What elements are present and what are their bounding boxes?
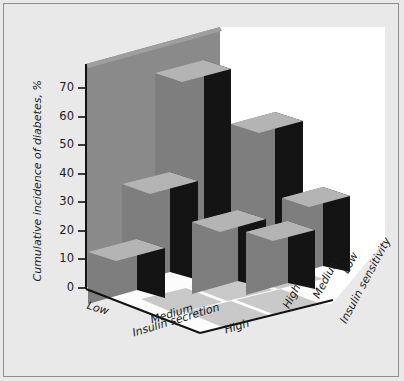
y-axis-title: Cumulative incidence of diabetes, % xyxy=(31,82,44,282)
three-d-bar-chart xyxy=(0,0,404,381)
y-tick-label-40: 40 xyxy=(52,168,74,180)
y-tick-label-0: 0 xyxy=(52,282,74,294)
y-tick-label-50: 50 xyxy=(52,139,74,151)
y-axis-ticks xyxy=(78,88,86,288)
chart-figure: 0 10 20 30 40 50 60 70 Cumulative incide… xyxy=(0,0,404,381)
bar-high-secretion-medium-sensitivity xyxy=(246,221,315,295)
y-tick-label-60: 60 xyxy=(52,111,74,123)
y-tick-label-10: 10 xyxy=(52,253,74,265)
y-tick-label-30: 30 xyxy=(52,196,74,208)
y-tick-label-20: 20 xyxy=(52,225,74,237)
y-tick-label-70: 70 xyxy=(52,82,74,94)
